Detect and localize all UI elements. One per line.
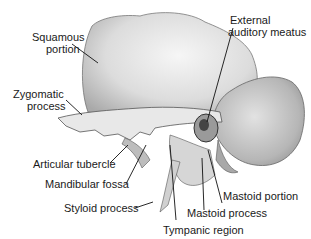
- label-line: portion: [32, 43, 85, 55]
- label-articular-tubercle: Articular tubercle: [33, 158, 116, 170]
- label-line: process: [13, 100, 66, 112]
- label-styloid-process: Styloid process: [64, 202, 139, 214]
- label-line: auditory meatus: [228, 26, 306, 38]
- label-zygomatic-process: Zygomatic process: [13, 88, 66, 112]
- tympanic-region-shape: [169, 135, 215, 185]
- label-line: Zygomatic: [13, 88, 66, 100]
- label-squamous-portion: Squamous portion: [32, 31, 85, 55]
- label-mastoid-portion: Mastoid portion: [223, 190, 298, 202]
- label-tympanic-region: Tympanic region: [163, 224, 244, 236]
- label-mastoid-process: Mastoid process: [187, 207, 267, 219]
- styloid-process-shape: [160, 160, 180, 212]
- label-mandibular-fossa: Mandibular fossa: [45, 178, 129, 190]
- mandibular-fossa-shape: [122, 138, 150, 168]
- label-external-auditory-meatus: External auditory meatus: [228, 14, 306, 38]
- label-line: Squamous: [32, 31, 85, 43]
- label-line: External: [228, 14, 306, 26]
